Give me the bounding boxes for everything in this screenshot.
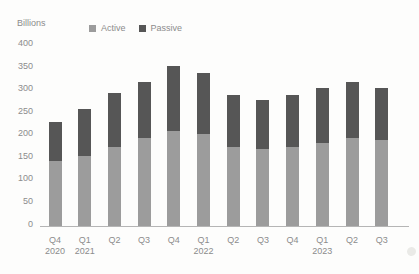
- x-axis-year-label: 2020: [40, 246, 70, 256]
- stacked-bar-q2-2023: [346, 82, 359, 226]
- y-axis-tick-label: 250: [5, 106, 33, 116]
- passive-series-swatch-icon: [139, 25, 146, 32]
- x-axis-quarter-label: Q1: [189, 235, 219, 245]
- active-segment: [375, 140, 388, 226]
- active-segment: [316, 143, 329, 226]
- x-axis-quarter-label: Q2: [99, 235, 129, 245]
- active-segment: [227, 147, 240, 226]
- y-axis-tick-label: 400: [5, 38, 33, 48]
- legend-label-passive: Passive: [151, 23, 183, 33]
- y-axis-tick-label: 200: [5, 128, 33, 138]
- active-segment: [49, 161, 62, 226]
- active-segment: [138, 138, 151, 226]
- passive-segment: [316, 88, 329, 142]
- passive-segment: [375, 88, 388, 140]
- passive-segment: [78, 109, 91, 156]
- y-axis-unit-label: Billions: [17, 18, 46, 28]
- y-axis-tick-label: 350: [5, 61, 33, 71]
- x-axis-quarter-label: Q2: [218, 235, 248, 245]
- passive-segment: [49, 122, 62, 160]
- active-series-swatch-icon: [89, 25, 96, 32]
- active-segment: [108, 147, 121, 226]
- x-axis-quarter-label: Q1: [307, 235, 337, 245]
- active-segment: [167, 131, 180, 226]
- legend-item-active: Active: [89, 23, 126, 33]
- x-axis-year-label: 2022: [189, 246, 219, 256]
- x-axis-quarter-label: Q4: [40, 235, 70, 245]
- stacked-bar-q2-2021: [108, 93, 121, 226]
- chart-legend: Active Passive: [89, 23, 182, 33]
- x-axis-quarter-label: Q4: [278, 235, 308, 245]
- stacked-bar-q3-2022: [256, 100, 269, 226]
- x-axis-line: [40, 226, 409, 227]
- active-segment: [256, 149, 269, 226]
- legend-label-active: Active: [101, 23, 126, 33]
- x-axis-quarter-label: Q1: [70, 235, 100, 245]
- stacked-bar-q2-2022: [227, 95, 240, 226]
- active-segment: [346, 138, 359, 226]
- legend-item-passive: Passive: [139, 23, 183, 33]
- x-axis-quarter-label: Q3: [248, 235, 278, 245]
- stacked-bar-q4-2020: [49, 122, 62, 226]
- passive-segment: [197, 73, 210, 134]
- stacked-bar-q1-2022: [197, 73, 210, 226]
- x-axis-quarter-label: Q4: [159, 235, 189, 245]
- y-axis-tick-label: 300: [5, 83, 33, 93]
- x-axis-year-label: 2021: [70, 246, 100, 256]
- passive-segment: [138, 82, 151, 138]
- y-axis-tick-label: 0: [5, 219, 33, 229]
- passive-segment: [256, 100, 269, 150]
- stacked-bar-q3-2023: [375, 88, 388, 226]
- x-axis-quarter-label: Q3: [367, 235, 397, 245]
- active-segment: [286, 147, 299, 226]
- active-segment: [78, 156, 91, 226]
- stacked-bar-q4-2022: [286, 95, 299, 226]
- y-axis-tick-label: 150: [5, 151, 33, 161]
- stacked-bar-q3-2021: [138, 82, 151, 226]
- x-axis-quarter-label: Q3: [129, 235, 159, 245]
- scan-smudge-artifact: [406, 246, 418, 258]
- passive-segment: [227, 95, 240, 147]
- active-segment: [197, 134, 210, 226]
- y-axis-tick-label: 100: [5, 173, 33, 183]
- stacked-bar-q1-2023: [316, 88, 329, 226]
- passive-segment: [346, 82, 359, 138]
- passive-segment: [108, 93, 121, 147]
- x-axis-year-label: 2023: [307, 246, 337, 256]
- x-axis-quarter-label: Q2: [337, 235, 367, 245]
- passive-segment: [167, 66, 180, 131]
- passive-segment: [286, 95, 299, 147]
- stacked-bar-q4-2021: [167, 66, 180, 226]
- y-axis-tick-label: 50: [5, 196, 33, 206]
- stacked-bar-chart: Billions Active Passive 4003503002502001…: [0, 0, 419, 274]
- stacked-bar-q1-2021: [78, 109, 91, 226]
